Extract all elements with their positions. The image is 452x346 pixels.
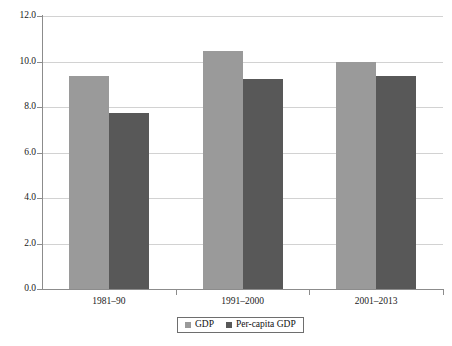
- y-tick-label: 2.0: [2, 238, 36, 248]
- bar-gdp: [336, 62, 376, 290]
- y-tick-label: 0.0: [2, 283, 36, 293]
- bar-gdp: [203, 51, 243, 289]
- legend-label: Per-capita GDP: [236, 320, 296, 330]
- x-axis-line: [42, 289, 444, 290]
- bar-per-capita-gdp: [109, 113, 149, 289]
- y-tick-label: 10.0: [2, 56, 36, 66]
- x-tick-mark: [309, 290, 310, 295]
- legend-swatch-icon: [226, 322, 232, 328]
- bar-per-capita-gdp: [243, 79, 283, 289]
- legend-swatch-icon: [185, 322, 191, 328]
- x-tick-mark: [443, 290, 444, 295]
- y-tick-label: 4.0: [2, 192, 36, 202]
- plot-area: [42, 16, 443, 289]
- x-category-label: 1981–90: [59, 296, 159, 306]
- legend-item[interactable]: GDP: [185, 320, 214, 330]
- legend-item[interactable]: Per-capita GDP: [226, 320, 296, 330]
- legend: GDPPer-capita GDP: [177, 317, 304, 333]
- x-tick-mark: [176, 290, 177, 295]
- x-category-label: 2001–2013: [326, 296, 426, 306]
- bar-gdp: [69, 76, 109, 289]
- y-tick-label: 6.0: [2, 147, 36, 157]
- legend-label: GDP: [195, 320, 214, 330]
- bar-chart: 0.02.04.06.08.010.012.0 1981–901991–2000…: [0, 0, 452, 346]
- y-tick-label: 12.0: [2, 10, 36, 20]
- x-category-label: 1991–2000: [193, 296, 293, 306]
- bar-per-capita-gdp: [376, 76, 416, 289]
- y-tick-label: 8.0: [2, 101, 36, 111]
